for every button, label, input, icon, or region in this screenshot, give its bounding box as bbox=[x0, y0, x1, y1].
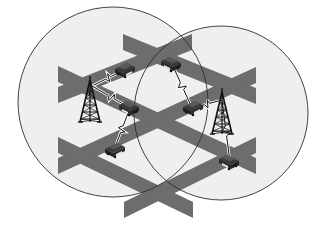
network-diagram bbox=[0, 0, 323, 231]
